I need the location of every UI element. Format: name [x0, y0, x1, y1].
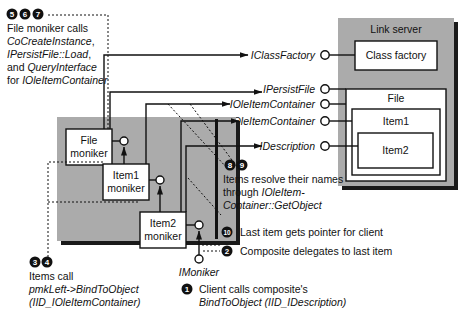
iclassfactory-label: IClassFactory	[251, 49, 316, 61]
step567-line-3: IPersistFile::Load,	[7, 48, 91, 60]
annotation-step-567: 5 6 7 File moniker calls CoCreateInstanc…	[7, 9, 108, 87]
svg-text:6: 6	[23, 10, 28, 19]
annotation-step-2: 2 Composite delegates to last item	[203, 245, 393, 257]
step89-line-1: Items resolve their names	[223, 173, 343, 185]
svg-text:1: 1	[185, 285, 190, 294]
class-factory-label: Class factory	[366, 49, 427, 61]
svg-text:3: 3	[33, 258, 38, 267]
svg-text:9: 9	[240, 161, 245, 170]
step34-line-3: (IID_IOleItemContainer)	[29, 296, 140, 308]
step10-text: Last item gets pointer for client	[240, 226, 383, 238]
svg-text:5: 5	[10, 10, 15, 19]
svg-text:4: 4	[45, 258, 50, 267]
step2-text: Composite delegates to last item	[240, 245, 393, 257]
step567-line-5: for IOleItemContainer	[7, 74, 108, 86]
item2-moniker-label-1: Item2	[150, 217, 176, 229]
item2-label: Item2	[382, 144, 408, 156]
item2-moniker-label-2: moniker	[144, 230, 182, 242]
svg-text:7: 7	[36, 10, 41, 19]
step567-line-4: and QueryInterface	[7, 61, 97, 73]
idescription-lollipop-icon	[321, 142, 329, 150]
annotation-step-10: 10 Last item gets pointer for client	[222, 226, 384, 238]
item2-moniker-lollipop-icon	[195, 221, 203, 229]
diagram-final: Link server Class factory File Item1 Ite…	[0, 0, 461, 321]
svg-text:2: 2	[225, 247, 230, 256]
item1-oleitemcontainer-lollipop-icon	[321, 117, 329, 125]
svg-text:10: 10	[223, 229, 231, 236]
step34-line-2: pmkLeft->BindToObject	[28, 283, 140, 295]
annotation-step-1: 1 Client calls composite's BindToObject …	[182, 283, 347, 308]
imoniker-lollipop-icon	[195, 255, 203, 263]
idescription-label: IDescription	[260, 140, 316, 152]
file-oleitemcontainer-lollipop-icon	[321, 100, 329, 108]
item1-moniker-label-2: moniker	[107, 182, 145, 194]
ipersistfile-lollipop-icon	[321, 85, 329, 93]
iclassfactory-lollipop-icon	[321, 51, 329, 59]
item1-moniker-label-1: Item1	[113, 169, 139, 181]
step567-line-1: File moniker calls	[7, 22, 88, 34]
step1-line-1: Client calls composite's	[199, 283, 308, 295]
item1-label: Item1	[383, 115, 409, 127]
file-moniker-label-2: moniker	[70, 147, 108, 159]
step1-line-2: BindToObject (IID_IDescription)	[199, 296, 346, 308]
svg-text:8: 8	[228, 161, 233, 170]
file-moniker-label-1: File	[81, 134, 98, 146]
file-label: File	[388, 92, 405, 104]
link-server-title: Link server	[370, 23, 422, 35]
step89-line-3: Container::GetObject	[223, 199, 323, 211]
item1-moniker-lollipop-icon	[156, 176, 164, 184]
imoniker-label: IMoniker	[179, 266, 220, 278]
step34-line-1: Items call	[29, 270, 73, 282]
item1-oleitemcontainer-label: IOleItemContainer	[230, 115, 316, 127]
annotation-step-89: 8 9 Items resolve their names through IO…	[223, 160, 343, 212]
step567-line-2: CoCreateInstance,	[7, 35, 95, 47]
file-moniker-lollipop-icon	[120, 137, 128, 145]
file-oleitemcontainer-label: IOleItemContainer	[230, 98, 316, 110]
composite-divider	[215, 119, 218, 239]
annotation-step-34: 3 4 Items call pmkLeft->BindToObject (II…	[28, 257, 140, 309]
ipersistfile-label: IPersistFile	[263, 83, 315, 95]
step89-line-2: through IOleItem-	[223, 186, 305, 198]
